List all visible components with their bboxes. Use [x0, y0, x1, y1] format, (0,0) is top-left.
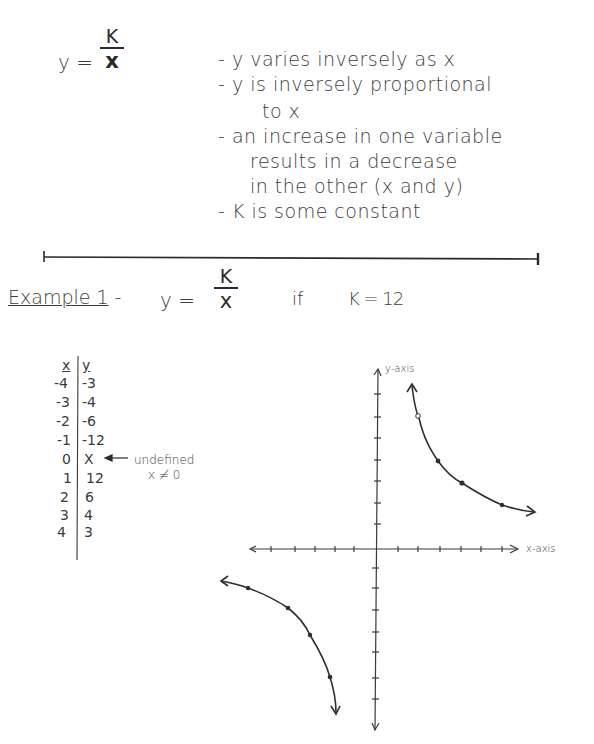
data-point [459, 480, 464, 485]
data-point [246, 586, 250, 590]
open-point [416, 414, 421, 419]
data-point [308, 633, 312, 637]
data-points-negative [246, 586, 333, 680]
curve-branch-positive [407, 384, 535, 516]
y-axis-line [375, 370, 378, 730]
table-lines [77, 356, 78, 560]
data-point [328, 675, 333, 680]
drawing-layer [0, 0, 594, 744]
data-point [500, 503, 504, 507]
graph-axes [250, 369, 518, 730]
data-points-positive [416, 414, 504, 507]
separator-rule [44, 251, 538, 265]
data-point [436, 459, 441, 464]
data-point [286, 606, 291, 611]
arrow-left-icon [105, 455, 128, 461]
curve-branch-negative [221, 576, 340, 714]
